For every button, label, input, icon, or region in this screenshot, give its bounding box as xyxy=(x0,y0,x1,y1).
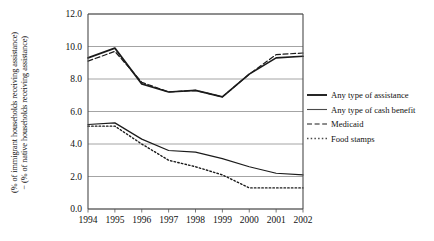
y-tick-label: 0.0 xyxy=(70,204,82,214)
x-tick-label: 1995 xyxy=(105,215,124,225)
y-tick-label: 8.0 xyxy=(70,74,82,84)
legend: Any type of assistanceAny type of cash b… xyxy=(307,90,416,144)
legend-label: Any type of assistance xyxy=(331,90,409,100)
y-axis-ticklabels: 0.02.04.06.08.010.012.0 xyxy=(65,9,82,214)
plot-area: 0.02.04.06.08.010.012.0 1994199519961997… xyxy=(0,0,434,241)
legend-label: Food stamps xyxy=(331,134,375,144)
chart-container: (% of immigrant households receiving ass… xyxy=(0,0,434,241)
data-series xyxy=(88,48,303,188)
x-tick-label: 2002 xyxy=(294,215,313,225)
grid-lines xyxy=(88,14,303,209)
y-tick-label: 2.0 xyxy=(70,172,82,182)
x-axis-ticklabels: 199419951996199719981999200020012002 xyxy=(79,215,313,225)
y-tick-label: 10.0 xyxy=(65,42,82,52)
series-line xyxy=(88,48,303,97)
y-tick-label: 12.0 xyxy=(65,9,82,19)
x-tick-label: 1994 xyxy=(79,215,98,225)
series-line xyxy=(88,126,303,188)
y-tick-label: 4.0 xyxy=(70,139,82,149)
legend-label: Medicaid xyxy=(331,119,364,129)
x-tick-label: 1996 xyxy=(132,215,151,225)
x-tick-label: 2001 xyxy=(267,215,286,225)
x-tick-label: 1999 xyxy=(213,215,232,225)
legend-label: Any type of cash benefit xyxy=(331,105,416,115)
y-tick-label: 6.0 xyxy=(70,107,82,117)
x-tick-label: 1998 xyxy=(186,215,205,225)
x-tick-label: 2000 xyxy=(240,215,259,225)
series-line xyxy=(88,51,303,96)
x-tick-label: 1997 xyxy=(159,215,178,225)
